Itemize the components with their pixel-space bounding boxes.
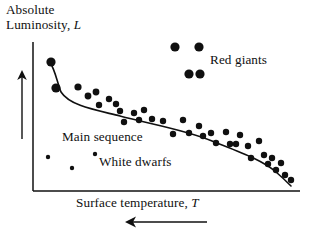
data-point bbox=[194, 42, 203, 51]
data-point bbox=[227, 141, 233, 147]
data-point bbox=[265, 161, 271, 167]
y-direction-arrow-icon bbox=[17, 70, 27, 139]
data-point bbox=[46, 57, 55, 66]
data-point bbox=[195, 69, 204, 78]
y-axis-title-line2: Luminosity, bbox=[6, 17, 70, 32]
data-point bbox=[233, 141, 239, 147]
data-point bbox=[93, 152, 97, 156]
data-point bbox=[208, 130, 214, 136]
y-axis-symbol: L bbox=[74, 17, 81, 32]
red-giants-label: Red giants bbox=[210, 53, 267, 68]
data-point bbox=[237, 132, 243, 138]
data-point bbox=[113, 101, 119, 107]
scatter-series-red-giants bbox=[170, 42, 204, 78]
data-point bbox=[288, 177, 294, 183]
data-point bbox=[141, 107, 147, 113]
data-point bbox=[278, 160, 284, 166]
data-point bbox=[51, 83, 60, 92]
data-point bbox=[96, 102, 102, 108]
data-point bbox=[245, 143, 251, 149]
data-point bbox=[273, 167, 279, 173]
data-point bbox=[248, 155, 254, 161]
data-point bbox=[131, 110, 137, 116]
data-point bbox=[93, 89, 100, 96]
x-axis-symbol: T bbox=[191, 195, 198, 210]
data-point bbox=[46, 155, 50, 159]
data-point bbox=[106, 96, 112, 102]
x-direction-arrow-icon bbox=[125, 217, 207, 228]
x-axis-title-text: Surface temperature, bbox=[76, 195, 188, 210]
y-axis-title: AbsoluteLuminosity, L bbox=[6, 3, 81, 33]
data-point bbox=[256, 138, 262, 144]
data-point bbox=[85, 93, 92, 100]
data-point bbox=[170, 42, 179, 51]
data-point bbox=[149, 116, 155, 122]
data-point bbox=[186, 130, 192, 136]
main-sequence-label: Main sequence bbox=[62, 130, 143, 145]
data-point bbox=[282, 172, 288, 178]
data-point bbox=[180, 117, 186, 123]
data-point bbox=[117, 108, 123, 114]
white-dwarfs-label: White dwarfs bbox=[99, 155, 172, 170]
data-point bbox=[196, 123, 202, 129]
data-point bbox=[121, 119, 127, 125]
data-point bbox=[261, 152, 267, 158]
scatter-series-white-dwarfs bbox=[46, 152, 97, 170]
hr-diagram-figure: AbsoluteLuminosity, L Surface temperatur… bbox=[0, 0, 311, 244]
data-point bbox=[269, 155, 275, 161]
data-point bbox=[136, 117, 142, 123]
data-point bbox=[74, 83, 81, 90]
data-point bbox=[223, 129, 229, 135]
data-point bbox=[70, 166, 74, 170]
x-axis-title: Surface temperature, T bbox=[76, 196, 199, 211]
data-point bbox=[184, 69, 193, 78]
data-point bbox=[170, 131, 176, 137]
data-point bbox=[213, 140, 219, 146]
y-axis-title-line1: Absolute bbox=[6, 2, 54, 17]
data-point bbox=[200, 133, 206, 139]
data-point bbox=[160, 118, 166, 124]
